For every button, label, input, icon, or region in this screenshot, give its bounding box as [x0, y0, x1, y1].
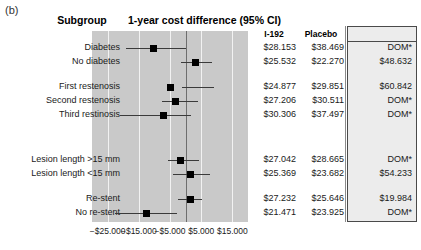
cell-placebo: $28.665: [298, 154, 344, 164]
column-divider: [345, 26, 346, 222]
point-estimate-marker: [187, 196, 194, 203]
gridline-2: [170, 31, 171, 222]
point-estimate-marker: [172, 98, 179, 105]
row-label: Second restenosis: [0, 95, 120, 105]
cell-i192: $28.153: [250, 42, 296, 52]
cell-placebo: $30.511: [298, 95, 344, 105]
cell-i192: $25.532: [250, 56, 296, 66]
cell-i192: $25.369: [250, 168, 296, 178]
column-header-plot-title: 1-year cost difference (95% CI): [128, 14, 256, 26]
point-estimate-marker: [160, 112, 167, 119]
cell-ce-ratio: DOM*: [350, 95, 412, 105]
zero-reference-line: [186, 31, 187, 222]
row-label: Lesion length >15 mm: [0, 154, 120, 164]
panel-label: (b): [5, 4, 18, 16]
forest-plot-figure: (b) Subgroup 1-year cost difference (95%…: [0, 0, 421, 250]
cell-placebo: $23.682: [298, 168, 344, 178]
row-label: First restenosis: [0, 81, 120, 91]
ce-ratio-header-divider: [347, 26, 417, 42]
cell-placebo: $37.497: [298, 109, 344, 119]
point-estimate-marker: [167, 84, 174, 91]
confidence-interval-line: [120, 115, 191, 116]
cell-ce-ratio: DOM*: [350, 109, 412, 119]
cell-i192: $21.471: [250, 207, 296, 217]
cell-i192: $27.042: [250, 154, 296, 164]
column-header-subgroup: Subgroup: [38, 14, 126, 26]
confidence-interval-line: [162, 101, 198, 102]
cell-i192: $27.232: [250, 193, 296, 203]
row-label: No re-stent: [0, 207, 120, 217]
column-header-i192: I-192: [252, 29, 296, 39]
cell-placebo: $25.646: [298, 193, 344, 203]
cell-ce-ratio: $54.233: [350, 168, 412, 178]
cell-ce-ratio: $48.632: [350, 56, 412, 66]
cell-i192: $30.306: [250, 109, 296, 119]
cell-i192: $27.206: [250, 95, 296, 105]
point-estimate-marker: [187, 171, 194, 178]
point-estimate-marker: [143, 210, 150, 217]
cell-ce-ratio: $19.984: [350, 193, 412, 203]
point-estimate-marker: [192, 59, 199, 66]
cell-ce-ratio: DOM*: [350, 207, 412, 217]
row-label: Diabetes: [0, 42, 120, 52]
gridline-4: [232, 31, 233, 222]
confidence-interval-line: [182, 87, 214, 88]
cell-placebo: $23.925: [298, 207, 344, 217]
cell-ce-ratio: $60.842: [350, 81, 412, 91]
cell-placebo: $38.469: [298, 42, 344, 52]
gridline-1: [139, 31, 140, 222]
cell-ce-ratio: DOM*: [350, 42, 412, 52]
x-tick-label: $15.000: [200, 226, 264, 236]
point-estimate-marker: [150, 45, 157, 52]
row-label: Lesion length <15 mm: [0, 168, 120, 178]
row-label: Re-stent: [0, 193, 120, 203]
gridline-3: [201, 31, 202, 222]
cell-i192: $24.877: [250, 81, 296, 91]
cell-placebo: $22.270: [298, 56, 344, 66]
row-label: No diabetes: [0, 56, 120, 66]
column-header-placebo: Placebo: [296, 29, 346, 39]
cell-placebo: $29.851: [298, 81, 344, 91]
cell-ce-ratio: DOM*: [350, 154, 412, 164]
row-label: Third restinosis: [0, 109, 120, 119]
point-estimate-marker: [177, 157, 184, 164]
